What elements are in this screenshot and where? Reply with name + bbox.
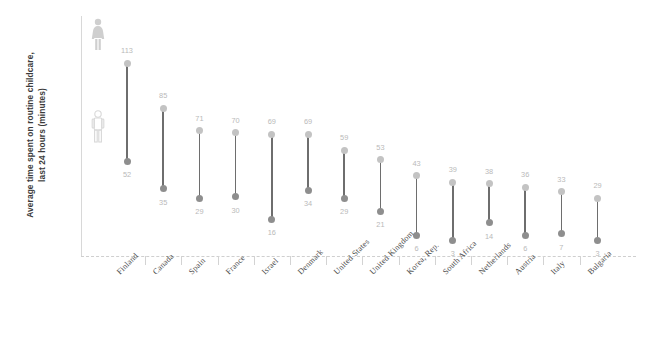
connector-line xyxy=(271,134,273,219)
value-label-men: 30 xyxy=(221,206,251,215)
value-label-women: 39 xyxy=(438,165,468,174)
connector-line xyxy=(235,133,237,197)
value-label-men: 29 xyxy=(329,207,359,216)
value-label-women: 113 xyxy=(112,46,142,55)
data-point-women[interactable] xyxy=(305,131,312,138)
data-point-women[interactable] xyxy=(341,147,348,154)
data-point-women[interactable] xyxy=(594,195,601,202)
connector-line xyxy=(343,150,345,198)
value-label-women: 59 xyxy=(329,133,359,142)
value-label-women: 38 xyxy=(474,167,504,176)
connector-line xyxy=(488,184,490,223)
value-label-women: 85 xyxy=(148,91,178,100)
value-label-men: 6 xyxy=(510,244,540,253)
value-label-women: 69 xyxy=(257,117,287,126)
data-point-women[interactable] xyxy=(522,184,529,191)
data-point-men[interactable] xyxy=(124,158,131,165)
value-label-men: 35 xyxy=(148,198,178,207)
data-point-men[interactable] xyxy=(522,232,529,239)
connector-line xyxy=(162,108,164,188)
value-label-men: 21 xyxy=(365,220,395,229)
value-label-men: 14 xyxy=(474,232,504,241)
data-point-men[interactable] xyxy=(160,185,167,192)
data-point-women[interactable] xyxy=(558,188,565,195)
connector-line xyxy=(597,198,599,240)
value-label-men: 16 xyxy=(257,228,287,237)
connector-line xyxy=(452,182,454,240)
value-label-women: 70 xyxy=(221,116,251,125)
value-label-men: 7 xyxy=(546,243,576,252)
connector-line xyxy=(380,160,382,211)
connector-line xyxy=(307,134,309,190)
value-label-women: 69 xyxy=(293,117,323,126)
value-label-men: 34 xyxy=(293,199,323,208)
data-point-women[interactable] xyxy=(413,172,420,179)
data-point-women[interactable] xyxy=(124,60,131,67)
value-label-women: 71 xyxy=(184,114,214,123)
value-label-women: 29 xyxy=(583,181,613,190)
data-point-men[interactable] xyxy=(558,230,565,237)
value-label-men: 29 xyxy=(184,207,214,216)
connector-line xyxy=(416,176,418,235)
data-point-men[interactable] xyxy=(232,193,239,200)
data-point-women[interactable] xyxy=(232,129,239,136)
data-point-men[interactable] xyxy=(341,195,348,202)
value-label-women: 33 xyxy=(546,175,576,184)
data-point-women[interactable] xyxy=(160,105,167,112)
data-point-men[interactable] xyxy=(196,195,203,202)
data-point-women[interactable] xyxy=(268,131,275,138)
value-label-women: 53 xyxy=(365,143,395,152)
plot-area: 1135285357129703069166934592953214363933… xyxy=(0,0,647,346)
data-point-men[interactable] xyxy=(449,237,456,244)
data-point-men[interactable] xyxy=(268,216,275,223)
data-point-women[interactable] xyxy=(196,127,203,134)
data-point-men[interactable] xyxy=(486,219,493,226)
data-point-women[interactable] xyxy=(377,156,384,163)
connector-line xyxy=(126,63,128,161)
data-point-women[interactable] xyxy=(486,180,493,187)
value-label-women: 43 xyxy=(402,159,432,168)
connector-line xyxy=(199,131,201,198)
connector-line xyxy=(561,192,563,234)
data-point-women[interactable] xyxy=(449,179,456,186)
value-label-men: 52 xyxy=(112,170,142,179)
data-point-men[interactable] xyxy=(594,237,601,244)
connector-line xyxy=(524,187,526,235)
data-point-men[interactable] xyxy=(305,187,312,194)
dumbbell-chart: Average time spent on routine childcare,… xyxy=(0,0,647,346)
data-point-men[interactable] xyxy=(377,208,384,215)
value-label-women: 36 xyxy=(510,170,540,179)
